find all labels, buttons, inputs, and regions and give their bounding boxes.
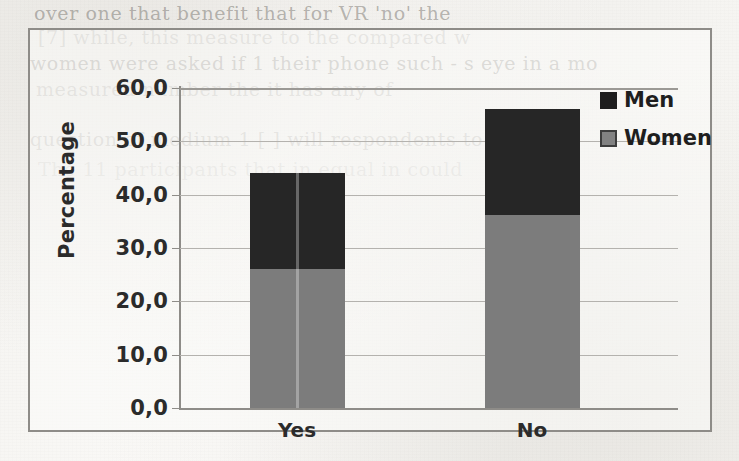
scanned-figure-page: over one that benefit that for VR 'no' t… [0, 0, 739, 461]
y-tick-label-50: 50,0 [115, 129, 168, 153]
bar-stack-yes[interactable] [250, 173, 345, 408]
x-tick-label-no: No [452, 418, 612, 442]
bar-segment-no-men[interactable] [485, 109, 580, 215]
legend-label-men: Men [624, 88, 674, 112]
gridline-0-baseline [180, 408, 678, 410]
legend-item-men[interactable]: Men [600, 88, 712, 112]
bar-stack-no[interactable] [485, 109, 580, 408]
y-tick-label-10: 10,0 [115, 343, 168, 367]
legend-label-women: Women [624, 126, 712, 150]
legend-item-women[interactable]: Women [600, 126, 712, 150]
legend-swatch-men-icon [600, 92, 617, 109]
y-tick-label-60: 60,0 [115, 76, 168, 100]
bar-segment-no-women[interactable] [485, 215, 580, 408]
scan-seam [296, 173, 299, 408]
y-tick-label-30: 30,0 [115, 236, 168, 260]
y-tick-label-0: 0,0 [130, 396, 168, 420]
y-tick-label-40: 40,0 [115, 183, 168, 207]
y-tick-label-20: 20,0 [115, 289, 168, 313]
y-axis-title: Percentage [55, 90, 79, 290]
y-axis-tick-labels: 60,0 50,0 40,0 30,0 20,0 10,0 0,0 [90, 88, 168, 408]
chart-frame: 60,0 50,0 40,0 30,0 20,0 10,0 0,0 Percen… [28, 28, 712, 432]
x-tick-label-yes: Yes [217, 418, 377, 442]
legend-swatch-women-icon [600, 130, 617, 147]
legend: Men Women [600, 88, 712, 164]
